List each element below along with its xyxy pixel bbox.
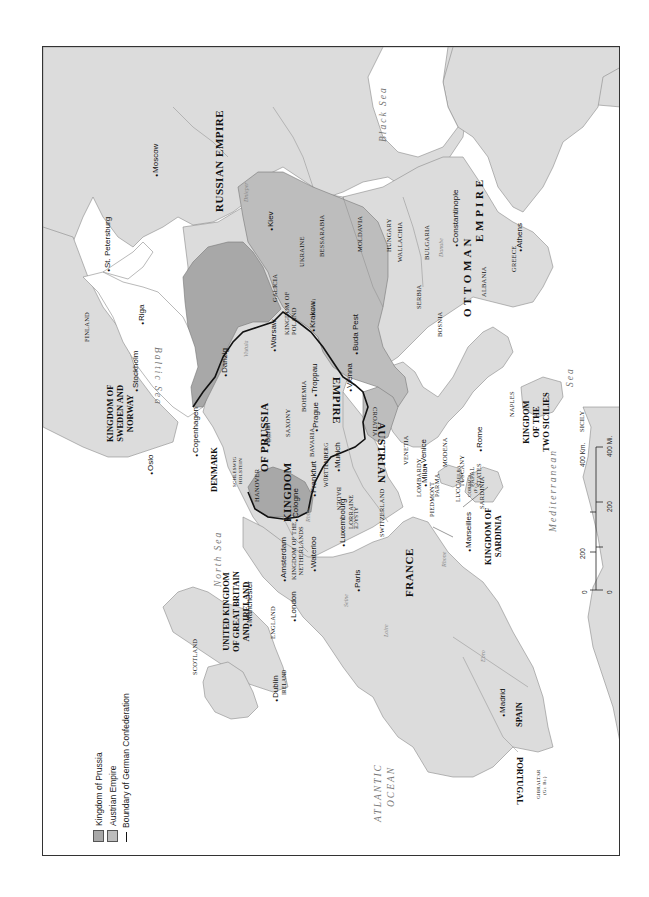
city-danzig: Danzig [220,348,229,377]
label-finland: FINLAND [83,312,90,342]
legend-confederation-label: Boundary of German Confederation [121,693,131,828]
label-gibraltar: GIBRALTAR [536,769,541,799]
legend-prussia-label: Kingdom of Prussia [94,752,104,826]
city-budapest: Buda Pest [351,314,360,355]
label-galicia: GALICIA [271,274,278,302]
city-marseilles: Marseilles [464,512,473,552]
label-ocean: OCEAN [386,766,396,807]
label-bulgaria: BULGARIA [423,225,430,260]
label-corsica-note: (Fr.) [473,483,478,493]
label-ottoman: O T T O M A N [461,238,473,317]
label-saxony: SAXONY [284,409,291,437]
label-bohemia: BOHEMIA [300,380,307,412]
label-austria-empire: EMPIRE [331,377,343,424]
scale-mi-0: 0 [606,590,613,594]
city-riga: Riga [137,305,146,325]
city-moscow: Moscow [151,144,160,177]
city-kiev: Kiev [266,211,275,231]
label-albania: ALBANIA [480,266,487,297]
city-cologne: Cologne [291,488,300,522]
city-constantinople: Constantinople [451,190,460,247]
river-seine: Seine [343,594,349,607]
label-england: ENGLAND [269,606,276,639]
city-frankfurt: Frankfurt [309,461,318,497]
label-switzerland: SWITZERLAND [378,489,385,537]
city-milan: Milan [420,464,429,487]
label-hanover: HANOVER [253,469,260,502]
city-stockholm: Stockholm [131,351,140,392]
label-poland: KINGDOM OF POLAND [283,292,297,335]
label-venetia: VENETIA [402,435,409,465]
label-elba: ELBA [456,465,461,479]
label-scotland: SCOTLAND [191,639,198,675]
label-naples: NAPLES [508,391,515,417]
label-portugal: PORTUGAL [515,757,525,805]
label-modena: MODENA [441,437,448,467]
city-troppau: Troppau [310,363,319,397]
city-vienna: Vienna [345,363,354,392]
label-ottoman-empire: E M P I R E [473,179,485,242]
city-oslo: Oslo [146,455,155,475]
river-vistula: Vistula [243,340,249,357]
river-rhone: Rhone [441,552,447,567]
label-wurttemberg: WÜRTTEMBERG [323,443,329,487]
river-ebro: Ebro [480,650,486,662]
scale-mi-200: 200 [606,501,613,512]
river-elbe: Elbe [266,431,272,442]
city-st-petersburg: St. Petersburg [103,217,112,272]
river-rhine: Rhine [305,508,311,522]
label-baltic-sea: Baltic Sea [153,347,163,406]
label-lorraine: LORRAINE [347,495,354,529]
legend-austria: Austrian Empire [107,766,118,842]
label-corsica: CORSICA [467,474,472,497]
city-krakow: Krakow [308,301,317,332]
label-black-sea: Black Sea [378,86,388,142]
label-schleswig: SCHLESWIG [232,457,237,487]
label-sardinia: SARDINIA [478,476,485,509]
river-danube: Danube [438,238,444,257]
label-moldavia: MOLDAVIA [356,216,363,252]
label-parma: PARMA [433,473,440,497]
legend-prussia: Kingdom of Prussia [93,752,104,842]
label-ireland: IRELAND [281,669,287,695]
city-luxembourg: Luxembourg [338,498,347,547]
scale-km-0: 0 [581,590,588,594]
city-rome: Rome [475,427,484,452]
austria-swatch [107,830,118,842]
city-prague: Prague [311,402,320,432]
label-france: FRANCE [403,548,415,597]
city-amsterdam: Amsterdam [279,537,288,582]
city-madrid: Madrid [498,689,507,717]
scale-km-200: 200 [579,548,586,559]
prussia-swatch [93,830,104,842]
label-gibraltar-note: (Gr. Br.) [542,776,547,795]
city-london: London [289,591,298,622]
label-sweden-norway: KINGDOM OF SWEDEN AND NORWAY [105,385,135,442]
label-denmark: DENMARK [209,447,219,492]
label-sicily: SICILY [578,411,585,433]
label-netherlands: KINGDOM OF THE NETHERLANDS [290,522,304,580]
city-venice: Venice [419,439,428,467]
label-bosnia: BOSNIA [436,312,443,337]
city-dublin: Dublin [271,675,280,702]
label-atlantic: ATLANTIC [373,763,383,822]
label-hungary: HUNGARY [385,218,392,252]
city-warsaw: Warsaw [269,319,278,352]
label-holstein: HOLSTEIN [238,458,243,484]
river-dnieper: Dnieper [243,182,249,202]
scale-km-label: 400 Km. [579,443,586,467]
label-sardinia-kingdom: KINGDOM OF SARDINIA [483,508,503,565]
label-serbia: SERBIA [415,285,422,309]
label-two-sicilies: KINGDOM OF THE TWO SICILIES [521,392,551,452]
label-med-sea: Sea [565,367,575,387]
city-paris: Paris [353,570,362,592]
land-north-africa [583,407,620,747]
city-manchester: Manchester [245,581,254,627]
label-spain: SPAIN [514,702,524,727]
confederation-line-swatch [126,832,127,842]
legend-austria-label: Austrian Empire [108,766,118,826]
river-loire: Loire [383,624,389,637]
city-athens: Athens [515,223,524,252]
city-munich: Munich [333,442,342,472]
label-russian-empire: RUSSIAN EMPIRE [213,110,225,212]
